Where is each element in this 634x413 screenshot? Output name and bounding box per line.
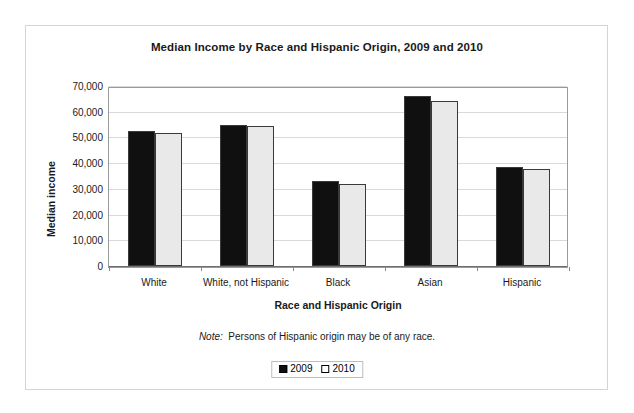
x-axis-tick xyxy=(569,267,570,271)
note-text: Persons of Hispanic origin may be of any… xyxy=(228,331,435,342)
plot-area xyxy=(108,87,568,268)
legend-item[interactable]: 2010 xyxy=(322,364,355,374)
bar-2009 xyxy=(496,167,523,266)
bar-2010 xyxy=(431,101,458,266)
y-axis-tick-label: 50,000 xyxy=(51,132,103,143)
y-axis-tick-label: 60,000 xyxy=(51,107,103,118)
bar-group xyxy=(404,86,458,266)
chart-title: Median Income by Race and Hispanic Origi… xyxy=(0,41,634,53)
x-axis-tick xyxy=(385,267,386,271)
bar-group xyxy=(128,86,182,266)
legend-item-label: 2010 xyxy=(333,364,355,374)
black-square-icon xyxy=(279,365,287,373)
bar-2009 xyxy=(312,181,339,266)
bar-2009 xyxy=(404,96,431,266)
chart-page: Median Income by Race and Hispanic Origi… xyxy=(0,0,634,413)
white-square-icon xyxy=(322,365,330,373)
bar-2009 xyxy=(220,125,247,266)
bar-group xyxy=(312,86,366,266)
x-axis-category-label: Hispanic xyxy=(476,277,568,288)
x-axis-category-label: White, not Hispanic xyxy=(200,277,292,288)
x-axis-line xyxy=(109,266,567,267)
bar-2010 xyxy=(339,184,366,266)
bar-2010 xyxy=(155,133,182,266)
y-axis-title-text: Median income xyxy=(46,161,57,237)
y-axis-tick-label: 30,000 xyxy=(51,184,103,195)
x-axis-tick xyxy=(109,267,110,271)
y-axis-tick-label: 70,000 xyxy=(51,81,103,92)
x-axis-tick xyxy=(293,267,294,271)
x-axis-title: Race and Hispanic Origin xyxy=(108,299,568,311)
bar-group xyxy=(220,86,274,266)
bar-group xyxy=(496,86,550,266)
note-emphasis: Note: xyxy=(199,331,223,342)
chart-legend: 20092010 xyxy=(271,361,363,378)
x-axis-category-label: Asian xyxy=(384,277,476,288)
y-axis-tick-label: 10,000 xyxy=(51,235,103,246)
legend-item[interactable]: 2009 xyxy=(279,364,312,374)
x-axis-category-label: Black xyxy=(292,277,384,288)
bar-2009 xyxy=(128,131,155,266)
chart-note: Note: Persons of Hispanic origin may be … xyxy=(0,331,634,342)
y-axis-tick-label: 0 xyxy=(51,261,103,272)
bar-2010 xyxy=(247,126,274,266)
x-axis-tick xyxy=(477,267,478,271)
bar-2010 xyxy=(523,169,550,266)
y-axis-title: Median income xyxy=(33,117,49,237)
y-axis-tick-label: 20,000 xyxy=(51,210,103,221)
y-axis-tick-label: 40,000 xyxy=(51,158,103,169)
x-axis-tick xyxy=(201,267,202,271)
x-axis-category-label: White xyxy=(108,277,200,288)
legend-item-label: 2009 xyxy=(290,364,312,374)
